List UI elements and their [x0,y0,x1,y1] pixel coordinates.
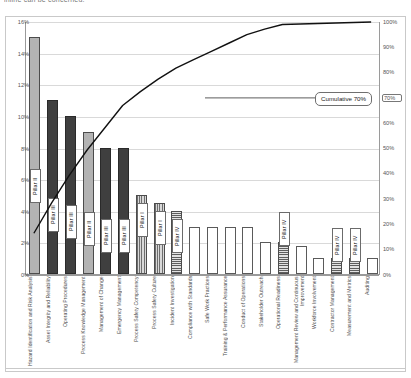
bar [278,242,289,274]
cumulative-callout: Cumulative 70% [315,92,372,106]
category-label: Management of Change [99,276,112,368]
category-label: Management Review and Continuous Improve… [294,276,307,368]
pillar-tag: Pillar IV [332,228,343,262]
clipped-header-text: inline can be concerned. [4,0,85,3]
y-tick-left: 16% [5,19,29,25]
y-tick-right: 60% [383,120,409,126]
bar [65,116,76,274]
category-label: Contractor Management [330,276,343,368]
bar [367,258,378,274]
plot-area: Pillar IIPillar IIIPillar IIIPillar IIPi… [25,22,380,275]
pillar-tag: Pillar II [30,169,41,203]
category-labels: Hazard Identification and Risk AnalysisA… [0,276,411,372]
pareto-chart: inline can be concerned. Pillar IIPillar… [0,0,411,378]
category-label: Compliance with Standards [188,276,201,368]
y-tick-right: 100% [383,19,409,25]
category-label: Operational Readiness [276,276,289,368]
y-tick-left: 2% [5,240,29,246]
bar [313,258,324,274]
y-tick-left: 14% [5,51,29,57]
category-label: Training & Performance Assurance [223,276,236,368]
bars-layer [26,23,379,274]
pillar-tag: Pillar IV [172,219,183,253]
category-label: Stakeholder Outreach [259,276,272,368]
bar [100,148,111,275]
y-tick-right: 80% [383,69,409,75]
y-tick-right: 30% [383,196,409,202]
category-label: Workforce Involvement [312,276,325,368]
pillar-tag: Pillar I [155,211,166,245]
category-label: Measurement and Metrics [347,276,360,368]
y-tick-right: 40% [383,170,409,176]
pillar-tag: Pillar I [137,203,148,237]
pillar-tag: Pillar III [48,198,59,232]
bottom-rule [5,368,406,369]
y-tick-right-highlighted: 70% [382,94,402,102]
pillar-tag: Pillar III [119,219,130,253]
y-tick-right: 50% [383,145,409,151]
category-label: Process Safety Competency [134,276,147,368]
category-label: Process Safety Culture [152,276,165,368]
bar [296,246,307,274]
category-label: Operating Procedures [63,276,76,368]
bar [260,242,271,274]
pillar-tag: Pillar III [66,205,77,239]
y-tick-right: 10% [383,246,409,252]
category-label: Asset Integrity and Reliability [46,276,59,368]
y-tick-left: 6% [5,177,29,183]
y-tick-left: 12% [5,82,29,88]
y-tick-left: 8% [5,146,29,152]
bar [118,148,129,275]
category-label: Process Knowledge Management [81,276,94,368]
category-label: Incident Investigation [170,276,183,368]
category-label: Emergency Management [117,276,130,368]
pillar-tag: Pillar IV [350,228,361,262]
pillar-tag: Pillar II [84,212,95,246]
category-label: Auditing [365,276,378,368]
category-label: Hazard Identification and Risk Analysis [28,276,41,368]
category-label: Conduct of Operations [241,276,254,368]
pillar-tag: Pillar IV [279,212,290,246]
bar [83,132,94,274]
bar [225,227,236,274]
bar [29,37,40,274]
y-tick-right: 90% [383,44,409,50]
y-tick-right: 20% [383,221,409,227]
bar [189,227,200,274]
pillar-tag: Pillar III [101,219,112,253]
bar [47,100,58,274]
bar [242,227,253,274]
y-tick-left: 10% [5,114,29,120]
y-tick-left: 4% [5,209,29,215]
category-label: Safe Work Practices [205,276,218,368]
bar [207,227,218,274]
